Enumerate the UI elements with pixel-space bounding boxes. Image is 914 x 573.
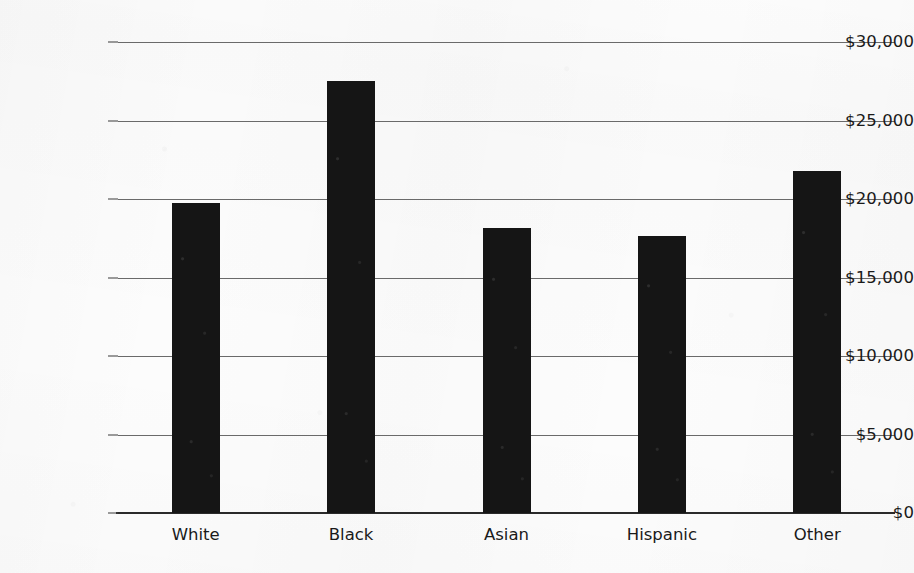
y-axis-tick-mark [108, 120, 118, 121]
x-axis-tick-label: Other [794, 527, 841, 544]
y-axis-tick-mark [108, 199, 118, 200]
bar [483, 228, 531, 513]
gridline [118, 121, 895, 122]
y-axis-tick-mark [108, 277, 118, 278]
x-axis-tick-label: White [172, 527, 220, 544]
y-axis-tick-label: $25,000 [810, 112, 914, 129]
gridline [118, 42, 895, 43]
bar [172, 203, 220, 513]
bar-chart-figure: $0$5,000$10,000$15,000$20,000$25,000$30,… [0, 0, 914, 573]
x-axis-tick-label: Black [329, 527, 374, 544]
y-axis-tick-mark [108, 42, 118, 43]
gridline [118, 199, 895, 200]
x-axis-tick-label: Asian [484, 527, 529, 544]
bar [638, 236, 686, 513]
plot-area: $0$5,000$10,000$15,000$20,000$25,000$30,… [0, 0, 914, 573]
y-axis-tick-label: $30,000 [810, 34, 914, 51]
bar [327, 81, 375, 513]
bar [793, 171, 841, 513]
y-axis-tick-mark [108, 356, 118, 357]
y-axis-tick-mark [108, 434, 118, 435]
x-axis-tick-label: Hispanic [627, 527, 697, 544]
y-axis-tick-mark [108, 513, 118, 514]
